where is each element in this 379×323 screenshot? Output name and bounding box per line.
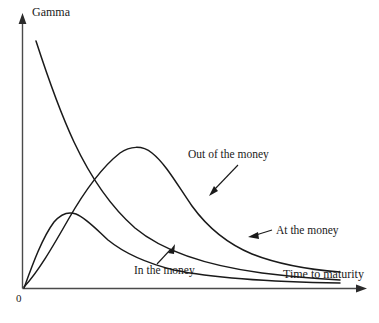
- leader-line-out-of-the-money: [214, 165, 238, 190]
- annotation-at-the-money: At the money: [276, 225, 339, 237]
- x-axis-title: Time to maturity: [283, 268, 364, 280]
- annotation-out-of-the-money: Out of the money: [188, 149, 269, 161]
- leader-at-the-money: [248, 230, 272, 239]
- annotation-in-the-money: In the money: [134, 265, 195, 277]
- leader-arrowhead-at-the-money-icon: [248, 232, 259, 239]
- curve-at-the-money: [36, 41, 340, 280]
- y-axis: [19, 13, 27, 289]
- origin-label: 0: [16, 293, 22, 304]
- leader-line-at-the-money: [256, 230, 272, 235]
- x-axis: [23, 285, 368, 293]
- leader-out-of-the-money: [209, 165, 238, 196]
- y-axis-title: Gamma: [32, 6, 70, 18]
- leader-line-in-the-money: [157, 249, 171, 264]
- x-axis-arrowhead-icon: [356, 285, 367, 293]
- gamma-vs-time-to-maturity-figure: Gamma Time to maturity 0 Out of the mone…: [0, 0, 379, 323]
- y-axis-arrowhead-icon: [19, 13, 27, 24]
